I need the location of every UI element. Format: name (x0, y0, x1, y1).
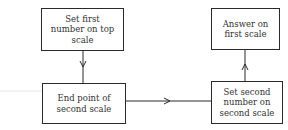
flowchart-canvas: Set first number on top scale End point … (0, 0, 288, 130)
node-end-point-second-scale: End point of second scale (42, 83, 126, 124)
node-text-line: Set second (220, 87, 275, 98)
node-text-line: Set first (51, 14, 115, 25)
node-text-line: second scale (57, 104, 112, 115)
node-set-second-number: Set second number on second scale (211, 81, 283, 124)
node-set-first-number: Set first number on top scale (41, 8, 124, 51)
node-text-line: second scale (220, 108, 275, 119)
node-text-line: Answer on (223, 19, 269, 30)
node-text-line: first scale (223, 29, 269, 40)
node-text-line: number on top (51, 24, 115, 35)
node-text-line: scale (51, 35, 115, 46)
node-text-line: End point of (57, 93, 112, 104)
node-answer-first-scale: Answer on first scale (211, 8, 280, 50)
node-text-line: number on (220, 97, 275, 108)
